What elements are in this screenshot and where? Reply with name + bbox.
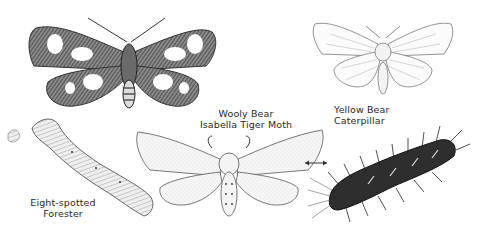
label-forester-line1: Eight-spotted xyxy=(28,197,98,208)
double-headed-arrow-icon xyxy=(305,161,327,166)
caterpillar-fragment xyxy=(8,130,20,142)
eight-spotted-forester-moth xyxy=(29,18,216,108)
illustration-canvas: Wooly Bear Isabella Tiger Moth Yellow Be… xyxy=(0,0,487,243)
label-wooly-bear-line1: Wooly Bear xyxy=(196,108,296,119)
label-wooly-bear-line2: Isabella Tiger Moth xyxy=(196,119,296,130)
label-eight-spotted-forester: Eight-spotted Forester xyxy=(28,197,98,219)
isabella-tiger-moth xyxy=(137,130,323,216)
label-yellow-bear-line1: Yellow Bear xyxy=(334,104,400,115)
label-forester-line2: Forester xyxy=(28,208,98,219)
wooly-bear-caterpillar xyxy=(308,126,470,222)
label-yellow-bear-line2: Caterpillar xyxy=(334,115,400,126)
yellow-bear-moth xyxy=(313,23,453,94)
label-wooly-bear: Wooly Bear Isabella Tiger Moth xyxy=(196,108,296,130)
label-yellow-bear: Yellow Bear Caterpillar xyxy=(334,104,400,126)
